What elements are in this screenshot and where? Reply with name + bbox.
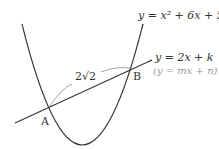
point-a-label: A xyxy=(41,116,49,127)
length-label: 2√2 xyxy=(75,71,96,82)
diagram-canvas: y = x² + 6x + 5 y = 2x + k (y = mx + n) … xyxy=(0,0,219,149)
general-line-equation-label: (y = mx + n) xyxy=(153,66,218,76)
point-b-label: B xyxy=(133,71,141,82)
line-equation-label: y = 2x + k xyxy=(155,52,214,63)
length-arc xyxy=(49,84,72,107)
length-arc-right xyxy=(101,68,130,73)
parabola-equation-label: y = x² + 6x + 5 xyxy=(138,10,219,21)
